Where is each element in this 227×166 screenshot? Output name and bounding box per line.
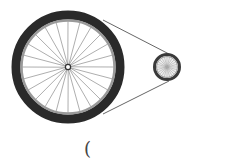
- small-wheel: [155, 55, 180, 80]
- wheel-belt-diagram: [0, 0, 227, 166]
- answer-bracket: (: [84, 140, 91, 158]
- large-wheel: [16, 15, 120, 119]
